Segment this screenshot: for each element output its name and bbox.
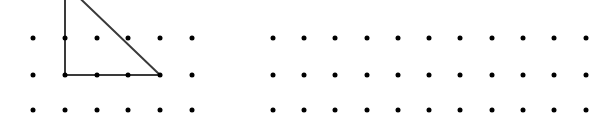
figure-svg — [0, 0, 615, 118]
lattice-dot — [158, 108, 163, 113]
lattice-dot — [31, 108, 36, 113]
lattice-dot — [521, 108, 526, 113]
lattice-dot — [63, 108, 68, 113]
lattice-dot — [584, 36, 589, 41]
lattice-dot — [365, 108, 370, 113]
lattice-dot — [95, 73, 100, 78]
lattice-dot — [333, 73, 338, 78]
lattice-dot — [552, 73, 557, 78]
right-triangle-overlay — [65, 0, 160, 75]
lattice-dot — [552, 108, 557, 113]
lattice-dot — [271, 36, 276, 41]
lattice-dot — [271, 108, 276, 113]
lattice-dot — [427, 108, 432, 113]
lattice-dot — [490, 73, 495, 78]
lattice-dot — [126, 73, 131, 78]
lattice-dot — [333, 108, 338, 113]
lattice-dot — [521, 36, 526, 41]
figure-canvas — [0, 0, 615, 118]
lattice-dot — [333, 36, 338, 41]
lattice-dot — [490, 36, 495, 41]
lattice-dot — [95, 36, 100, 41]
lattice-dot — [490, 108, 495, 113]
lattice-dot — [95, 108, 100, 113]
lattice-dot — [63, 36, 68, 41]
lattice-dot — [126, 108, 131, 113]
lattice-dot — [158, 73, 163, 78]
right-lattice-points — [271, 36, 589, 113]
lattice-dot — [302, 36, 307, 41]
lattice-dot — [584, 108, 589, 113]
lattice-dot — [396, 108, 401, 113]
lattice-dot — [302, 73, 307, 78]
lattice-dot — [521, 73, 526, 78]
lattice-dot — [271, 73, 276, 78]
lattice-dot — [126, 36, 131, 41]
lattice-dot — [365, 73, 370, 78]
lattice-dot — [458, 36, 463, 41]
lattice-dot — [427, 73, 432, 78]
lattice-dot — [190, 36, 195, 41]
lattice-dot — [63, 73, 68, 78]
lattice-dot — [396, 36, 401, 41]
lattice-dot — [396, 73, 401, 78]
lattice-dot — [158, 36, 163, 41]
lattice-dot — [584, 73, 589, 78]
lattice-dot — [458, 108, 463, 113]
lattice-dot — [365, 36, 370, 41]
dot-lattice-layer — [0, 0, 615, 118]
lattice-dot — [31, 73, 36, 78]
lattice-dot — [190, 108, 195, 113]
lattice-dot — [31, 36, 36, 41]
lattice-dot — [427, 36, 432, 41]
lattice-dot — [302, 108, 307, 113]
lattice-dot — [552, 36, 557, 41]
lattice-dot — [190, 73, 195, 78]
lattice-dot — [458, 73, 463, 78]
